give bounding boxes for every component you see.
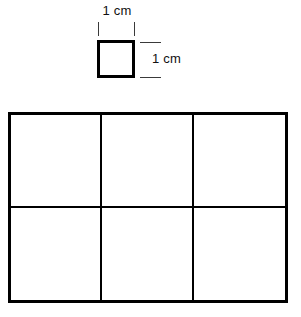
grid-cell [194, 115, 285, 208]
unit-square-height-label: 1 cm [152, 51, 181, 66]
dimension-tick-right-bottom [140, 77, 161, 78]
grid-cell [11, 208, 102, 301]
grid-cell [194, 208, 285, 301]
dimension-tick-right-top [140, 42, 161, 43]
geometry-area-figure: 1 cm 1 cm [0, 0, 301, 317]
grid-cell [102, 208, 193, 301]
unit-square-width-label: 1 cm [97, 3, 137, 18]
unit-square [97, 40, 135, 78]
dimension-tick-top-right [134, 22, 135, 36]
grid-cell [11, 115, 102, 208]
grid-cell [102, 115, 193, 208]
dimension-tick-top-left [98, 22, 99, 36]
area-grid [8, 112, 288, 303]
